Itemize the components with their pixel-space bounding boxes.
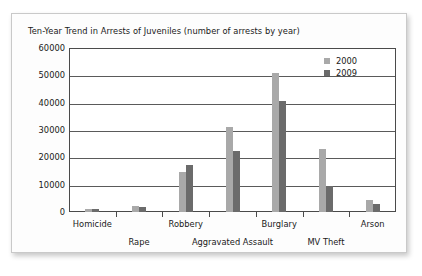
x-axis-category-label: Aggravated Assault bbox=[192, 237, 273, 247]
gridline bbox=[70, 104, 395, 105]
x-axis-tick bbox=[116, 212, 117, 217]
x-axis-tick bbox=[162, 212, 163, 217]
chart-card: Ten-Year Trend in Arrests of Juveniles (… bbox=[11, 13, 407, 253]
y-axis-tick-label: 50000 bbox=[21, 70, 65, 80]
chart-page: Ten-Year Trend in Arrests of Juveniles (… bbox=[0, 0, 422, 276]
y-axis-tick-label: 60000 bbox=[21, 43, 65, 53]
x-axis-category-label: Rape bbox=[129, 237, 150, 247]
x-axis-category-label: Homicide bbox=[73, 219, 112, 229]
legend-swatch-icon bbox=[324, 70, 330, 76]
x-axis-tick bbox=[209, 212, 210, 217]
gridline bbox=[70, 131, 395, 132]
gridline bbox=[70, 186, 395, 187]
y-axis-tick-label: 40000 bbox=[21, 98, 65, 108]
x-axis-category-label: Burglary bbox=[262, 219, 297, 229]
legend-item[interactable]: 2009 bbox=[324, 67, 357, 79]
y-axis-tick-label: 20000 bbox=[21, 152, 65, 162]
y-axis-tick-label: 30000 bbox=[21, 125, 65, 135]
gridline bbox=[70, 158, 395, 159]
x-axis-category-label: Robbery bbox=[169, 219, 203, 229]
legend-item[interactable]: 2000 bbox=[324, 55, 357, 67]
legend-label: 2009 bbox=[336, 68, 357, 78]
x-axis-tick bbox=[256, 212, 257, 217]
x-axis-category-label: Arson bbox=[361, 219, 385, 229]
x-axis-tick bbox=[349, 212, 350, 217]
x-axis-tick bbox=[303, 212, 304, 217]
chart-title: Ten-Year Trend in Arrests of Juveniles (… bbox=[28, 26, 300, 36]
y-axis-tick-label: 10000 bbox=[21, 180, 65, 190]
x-axis-ticks bbox=[69, 212, 396, 218]
x-axis-category-label: MV Theft bbox=[307, 237, 344, 247]
legend-swatch-icon bbox=[324, 58, 330, 64]
legend-label: 2000 bbox=[336, 56, 357, 66]
y-axis-tick-label: 0 bbox=[21, 207, 65, 217]
y-axis: 6000050000400003000020000100000 bbox=[17, 48, 65, 212]
chart-legend: 20002009 bbox=[324, 55, 357, 79]
